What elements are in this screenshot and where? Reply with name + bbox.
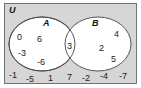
outside-element: -2 bbox=[82, 73, 90, 83]
set-b-label: B bbox=[92, 18, 99, 28]
b-only-element: 2 bbox=[99, 43, 104, 53]
a-only-element: -6 bbox=[37, 57, 45, 67]
a-only-element: 6 bbox=[37, 34, 42, 44]
outside-element: 7 bbox=[67, 72, 72, 82]
universal-label: U bbox=[9, 5, 16, 15]
b-only-element: 4 bbox=[114, 29, 119, 39]
outside-element: -1 bbox=[9, 70, 17, 80]
set-a-label: A bbox=[42, 18, 50, 28]
intersection-element: 3 bbox=[67, 41, 72, 51]
b-only-element: 5 bbox=[111, 54, 116, 64]
a-only-element: -3 bbox=[18, 48, 26, 58]
outside-element: 1 bbox=[48, 73, 53, 83]
outside-element: -4 bbox=[100, 71, 108, 81]
outside-element: -5 bbox=[26, 74, 34, 84]
venn-diagram: U A B 0 6 -3 -6 3 4 2 5 -1 -5 1 7 -2 -4 … bbox=[0, 0, 141, 88]
a-only-element: 0 bbox=[17, 32, 22, 42]
outside-element: -7 bbox=[119, 71, 127, 81]
